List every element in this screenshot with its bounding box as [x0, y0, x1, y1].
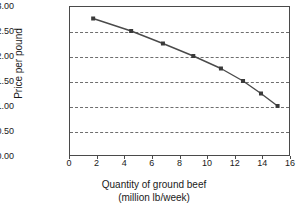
x-tick-label: 12: [225, 159, 245, 168]
plot-area: [69, 6, 290, 156]
x-axis-title-line1: Quantity of ground beef: [0, 178, 308, 191]
gridline: [70, 132, 289, 133]
y-tick-label: $0.00: [0, 152, 14, 161]
x-tick-label: 4: [114, 159, 134, 168]
x-tick-label: 6: [142, 159, 162, 168]
y-tick-label: $0.50: [0, 127, 14, 136]
gridline: [70, 32, 289, 33]
y-tick-label: $1.00: [0, 102, 14, 111]
y-axis-title: Price per pound: [13, 16, 24, 112]
y-tick-label: $2.50: [0, 27, 14, 36]
y-tick-label: $3.00: [0, 2, 14, 11]
gridline: [70, 107, 289, 108]
x-tick-label: 8: [170, 159, 190, 168]
x-axis-title-line2: (million lb/week): [0, 191, 308, 204]
y-tick-label: $1.50: [0, 77, 14, 86]
gridline: [70, 82, 289, 83]
chart-page: Price per pound $3.00$2.50$2.00$1.50$1.0…: [0, 0, 308, 216]
gridline: [70, 57, 289, 58]
x-axis-title: Quantity of ground beef (million lb/week…: [0, 178, 308, 204]
x-tick-label: 10: [197, 159, 217, 168]
y-tick-label: $2.00: [0, 52, 14, 61]
x-tick-label: 16: [280, 159, 300, 168]
x-tick-label: 0: [59, 159, 79, 168]
x-tick-label: 14: [252, 159, 272, 168]
x-tick-label: 2: [87, 159, 107, 168]
